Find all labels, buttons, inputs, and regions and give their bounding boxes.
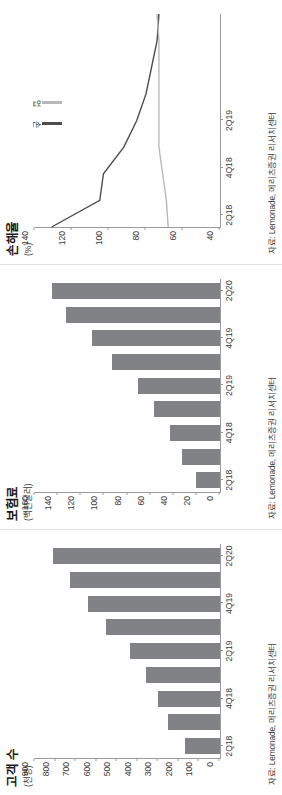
legend-item: 손 — [33, 118, 62, 129]
line-series-업계 평균 — [157, 14, 168, 227]
y-axis-tick-label: 80 — [131, 227, 141, 241]
y-axis-tick-label: 700 — [61, 758, 71, 776]
x-axis-tick-mark — [220, 479, 223, 480]
y-axis-tick-mark — [195, 492, 196, 495]
x-axis-tick-label: 4Q18 — [224, 422, 234, 443]
y-axis-tick-mark — [219, 227, 220, 230]
bar — [112, 354, 220, 370]
y-axis-tick-label: 120 — [57, 227, 67, 245]
figure-strip: 고객 수 (천명) 01002003004005006007008009002Q… — [0, 0, 282, 795]
legend-swatch — [42, 101, 62, 104]
plot-area-premium: 0204060801001201401602Q184Q182Q194Q192Q2… — [35, 279, 221, 493]
x-axis-tick-mark — [220, 555, 223, 556]
y-axis-tick-label: 600 — [82, 758, 92, 776]
bar — [196, 472, 220, 488]
source-note-customers: 자료: Lemonade, 메리츠증권 리서치센터 — [265, 643, 277, 785]
panel-title-premium: 보험료 — [6, 273, 21, 521]
y-axis-tick-label: 140 — [43, 492, 53, 510]
y-axis-tick-mark — [219, 492, 220, 495]
panel-premium: 보험료 (백만달러) 0204060801001201401602Q184Q18… — [0, 265, 282, 530]
x-axis-tick-mark — [220, 167, 223, 168]
x-axis-tick-mark — [220, 432, 223, 433]
y-unit-loss-ratio: (%) — [22, 8, 34, 256]
bar — [170, 425, 220, 441]
x-axis-tick-label: 2Q18 — [224, 470, 234, 491]
bar — [52, 283, 220, 299]
y-axis-tick-label: 140 — [20, 227, 30, 245]
x-axis-tick-mark — [220, 337, 223, 338]
x-axis-tick-mark — [220, 698, 223, 699]
y-unit-premium: (백만달러) — [22, 273, 34, 521]
source-note-loss-ratio: 자료: Lemonade, 메리츠증권 리서치센터 — [265, 112, 277, 254]
bar — [168, 714, 220, 730]
x-axis-tick-label: 4Q18 — [224, 157, 234, 178]
y-axis-tick-label: 60 — [136, 492, 146, 506]
x-axis-tick-label: 4Q19 — [224, 328, 234, 349]
panel-customers: 고객 수 (천명) 01002003004005006007008009002Q… — [0, 530, 282, 795]
y-axis-tick-mark — [172, 492, 173, 495]
bar-series-customers — [35, 544, 220, 758]
y-axis-tick-label: 300 — [143, 758, 153, 776]
y-axis-tick-label: 500 — [102, 758, 112, 776]
y-axis-tick-mark — [182, 227, 183, 230]
y-axis-tick-label: 400 — [123, 758, 133, 776]
bar — [154, 401, 220, 417]
x-axis-tick-mark — [220, 385, 223, 386]
y-axis-tick-mark — [149, 492, 150, 495]
bar — [130, 643, 220, 659]
y-axis-tick-label: 60 — [168, 227, 178, 241]
x-axis-tick-label: 2Q20 — [224, 545, 234, 566]
panel-loss-ratio: 손해율 (%) 손업 4060801001201402Q184Q182Q19 자… — [0, 0, 282, 265]
x-axis-tick-mark — [220, 602, 223, 603]
y-axis-tick-label: 20 — [182, 492, 192, 506]
legend-loss-ratio: 손업 — [33, 97, 62, 129]
x-axis-tick-mark — [220, 650, 223, 651]
bar — [92, 330, 220, 346]
y-axis-tick-mark — [103, 492, 104, 495]
x-axis-tick-label: 2Q19 — [224, 110, 234, 131]
y-axis-tick-mark — [54, 758, 55, 761]
y-unit-customers: (천명) — [22, 538, 34, 787]
y-axis-tick-mark — [219, 758, 220, 761]
x-axis-tick-label: 4Q18 — [224, 688, 234, 709]
y-axis-tick-label: 900 — [20, 758, 30, 776]
y-axis-tick-mark — [136, 758, 137, 761]
bar — [158, 691, 220, 707]
y-axis-tick-label: 40 — [159, 492, 169, 506]
y-axis-tick-label: 100 — [94, 227, 104, 245]
x-axis-tick-label: 2Q18 — [224, 205, 234, 226]
y-axis-tick-label: 100 — [89, 492, 99, 510]
bar — [66, 307, 220, 323]
y-axis-tick-label: 160 — [20, 492, 30, 510]
bar — [138, 378, 220, 394]
bar — [185, 738, 220, 754]
y-axis-tick-mark — [108, 227, 109, 230]
y-axis-tick-mark — [198, 758, 199, 761]
x-axis-tick-label: 2Q20 — [224, 280, 234, 301]
x-axis-tick-label: 2Q19 — [224, 640, 234, 661]
x-axis-tick-mark — [220, 290, 223, 291]
y-axis-tick-mark — [80, 492, 81, 495]
line-series-손해율 — [52, 14, 159, 227]
x-axis-tick-mark — [220, 120, 223, 121]
bar — [182, 449, 220, 465]
y-axis-tick-label: 100 — [184, 758, 194, 776]
bar-series-premium — [35, 279, 220, 492]
y-axis-tick-label: 40 — [205, 227, 215, 241]
y-axis-tick-label: 800 — [41, 758, 51, 776]
y-axis-tick-mark — [145, 227, 146, 230]
plot-area-loss-ratio: 손업 4060801001201402Q184Q182Q19 — [35, 14, 221, 228]
x-axis-tick-label: 4Q19 — [224, 593, 234, 614]
x-axis-tick-label: 2Q19 — [224, 375, 234, 396]
y-axis-tick-label: 120 — [66, 492, 76, 510]
x-axis-tick-label: 2Q18 — [224, 736, 234, 757]
y-axis-tick-mark — [34, 758, 35, 761]
line-chart-svg — [35, 14, 220, 227]
bar — [146, 667, 220, 683]
figure-strip-rotor: 고객 수 (천명) 01002003004005006007008009002Q… — [0, 0, 282, 795]
y-axis-tick-mark — [57, 492, 58, 495]
panel-title-customers: 고객 수 — [6, 538, 21, 787]
panel-title-loss-ratio: 손해율 — [6, 8, 21, 256]
y-axis-tick-mark — [71, 227, 72, 230]
y-axis-tick-mark — [126, 492, 127, 495]
